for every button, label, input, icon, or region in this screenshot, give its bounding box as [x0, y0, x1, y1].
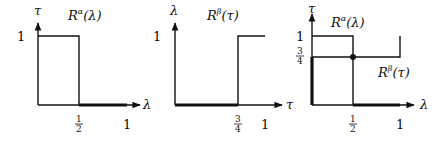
panel-combined: τ Rα(λ) Rβ(τ) 1 3 4 λ 1 2 1 [296, 1, 428, 134]
diagram-canvas: τ Rα(λ) 1 λ 1 2 1 λ Rβ(τ) 1 τ 3 4 1 [0, 0, 447, 143]
alpha-curve-label: Rα(λ) [330, 14, 365, 30]
y-axis-label: τ [34, 3, 42, 18]
x-tick-1: 1 [123, 117, 131, 132]
svg-text:1: 1 [76, 114, 82, 124]
y-tick-1: 1 [153, 29, 161, 44]
x-tick-three-quarters: 3 4 [234, 114, 242, 134]
svg-text:2: 2 [76, 124, 82, 134]
beta-response-curve [238, 36, 265, 105]
beta-curve-label: Rβ(τ) [377, 64, 410, 80]
x-tick-1: 1 [396, 117, 404, 132]
y-tick-1: 1 [296, 29, 304, 44]
svg-text:2: 2 [350, 124, 356, 134]
svg-text:3: 3 [297, 46, 303, 56]
panel-title: Rα(λ) [67, 7, 102, 23]
svg-text:4: 4 [297, 56, 303, 66]
panel-title: Rβ(τ) [206, 7, 239, 23]
svg-text:3: 3 [235, 114, 241, 124]
beta-response-curve [312, 36, 400, 57]
x-tick-half: 1 2 [75, 114, 83, 134]
svg-text:4: 4 [235, 124, 241, 134]
x-axis-label: λ [142, 97, 151, 112]
y-tick-1: 1 [17, 29, 25, 44]
x-tick-half: 1 2 [349, 114, 357, 134]
y-axis-label: λ [169, 3, 178, 18]
x-axis-label: λ [419, 97, 428, 112]
alpha-response-curve [312, 36, 353, 105]
y-axis-label: τ [308, 1, 316, 16]
x-axis-label: τ [286, 97, 294, 112]
panel-beta: λ Rβ(τ) 1 τ 3 4 1 [153, 3, 294, 134]
y-tick-three-quarters: 3 4 [296, 46, 304, 66]
alpha-response-curve [38, 36, 79, 105]
svg-text:1: 1 [350, 114, 356, 124]
equilibrium-point [350, 54, 356, 60]
panel-alpha: τ Rα(λ) 1 λ 1 2 1 [17, 3, 151, 134]
x-tick-1: 1 [261, 117, 269, 132]
